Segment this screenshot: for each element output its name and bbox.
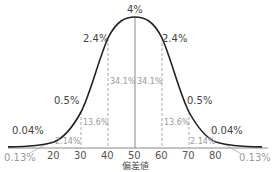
x-tick-20: 20	[47, 151, 60, 161]
x-axis-label: 偏差値	[122, 162, 149, 171]
x-tick-30: 30	[74, 151, 87, 161]
area-label-30-40: 13.6%	[83, 119, 108, 127]
area-label-60-70: 13.6%	[164, 119, 189, 127]
x-tick-70: 70	[182, 151, 195, 161]
label-p30: 0.5%	[54, 96, 79, 106]
tail-label-left: 0.13%	[4, 153, 36, 163]
area-label-20-30: 2.14%	[55, 138, 80, 146]
x-tick-40: 40	[101, 151, 114, 161]
area-label-50-60: 34.1%	[137, 78, 162, 86]
label-p70: 0.5%	[187, 96, 212, 106]
label-p80: 0.04%	[211, 126, 243, 136]
x-tick-60: 60	[155, 151, 168, 161]
label-p20: 0.04%	[12, 126, 44, 136]
label-p50: 4%	[127, 5, 143, 15]
normal-distribution-chart: 0.04% 0.5% 2.4% 4% 2.4% 0.5% 0.04% 2.14%…	[0, 0, 275, 172]
x-tick-50: 50	[128, 151, 141, 161]
area-label-70-80: 2.14%	[190, 138, 215, 146]
label-p40: 2.4%	[83, 34, 108, 44]
x-tick-80: 80	[209, 151, 222, 161]
chart-canvas	[0, 0, 275, 172]
tail-label-right: 0.13%	[239, 153, 271, 163]
area-label-40-50: 34.1%	[110, 78, 135, 86]
label-p60: 2.4%	[162, 34, 187, 44]
